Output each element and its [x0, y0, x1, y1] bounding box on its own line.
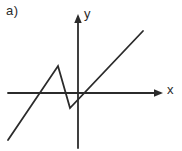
- y-axis-label: y: [84, 6, 91, 21]
- piecewise-linear-curve: [8, 31, 143, 140]
- graph-canvas: [0, 0, 182, 151]
- x-axis-arrowhead: [154, 89, 163, 96]
- curve-group: [8, 31, 143, 140]
- figure-container: a) y x: [0, 0, 182, 151]
- y-axis-arrowhead: [74, 14, 81, 23]
- x-axis-label: x: [167, 82, 174, 97]
